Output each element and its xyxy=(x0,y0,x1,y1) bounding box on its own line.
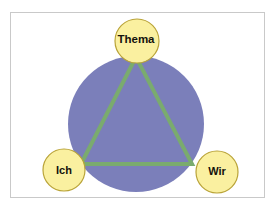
diagram-canvas: Thema Ich Wir xyxy=(0,0,277,212)
node-circle-ich[interactable] xyxy=(43,149,85,191)
node-circle-wir[interactable] xyxy=(196,151,238,193)
tzi-diagram xyxy=(0,0,277,212)
node-circle-thema[interactable] xyxy=(115,19,159,63)
globe-circle xyxy=(68,56,204,192)
